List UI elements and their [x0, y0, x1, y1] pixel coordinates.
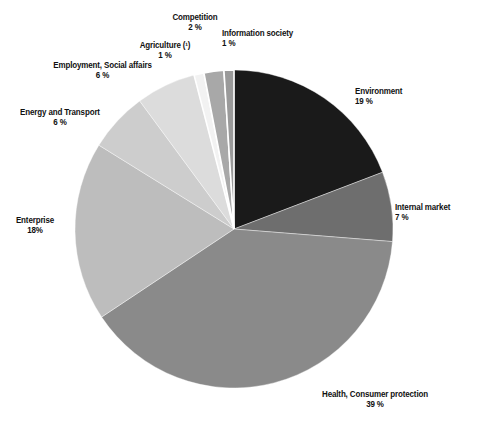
chart-plot-area: Competition 2 % Information society 1 % … [0, 0, 483, 434]
slice-label-competition-name: Competition [153, 12, 237, 22]
slice-label-environment-value: 19 % [355, 96, 468, 106]
slice-label-internal-market-name: Internal market [395, 202, 475, 212]
slice-label-enterprise: Enterprise 18% [2, 215, 67, 236]
slice-label-internal-market-value: 7 % [395, 212, 475, 222]
slice-label-information-society: Information society 1 % [222, 28, 334, 49]
slice-label-enterprise-value: 18% [2, 225, 67, 235]
slice-label-enterprise-name: Enterprise [2, 215, 67, 225]
slice-label-energy-and-transport-value: 6 % [14, 117, 107, 127]
slice-label-internal-market: Internal market 7 % [395, 202, 475, 223]
slice-label-environment-name: Environment [355, 86, 468, 96]
slice-label-agriculture-name: Agriculture (¹) [123, 40, 207, 50]
slice-label-health-consumer-protection: Health, Consumer protection 39 % [277, 389, 472, 410]
slice-label-agriculture: Agriculture (¹) 1 % [123, 40, 207, 61]
slice-label-information-society-value: 1 % [222, 38, 334, 48]
pie-slices-group [75, 70, 393, 388]
slice-label-information-society-name: Information society [222, 28, 334, 38]
slice-label-environment: Environment 19 % [355, 86, 468, 107]
slice-label-energy-and-transport-name: Energy and Transport [14, 107, 107, 117]
slice-label-employment-social-affairs: Employment, Social affairs 6 % [44, 60, 160, 81]
slice-label-health-consumer-protection-value: 39 % [277, 399, 472, 409]
slice-label-employment-social-affairs-value: 6 % [44, 70, 160, 80]
slice-label-energy-and-transport: Energy and Transport 6 % [14, 107, 107, 128]
slice-label-employment-social-affairs-name: Employment, Social affairs [44, 60, 160, 70]
pie-chart-figure: Competition 2 % Information society 1 % … [0, 0, 483, 434]
slice-label-health-consumer-protection-name: Health, Consumer protection [277, 389, 472, 399]
